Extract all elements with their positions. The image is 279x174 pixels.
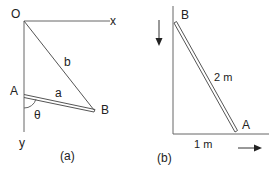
base-distance-label: 1 m	[194, 139, 212, 150]
ladder-end-top	[174, 22, 177, 24]
angle-label: θ	[34, 109, 41, 121]
point-a-label: A	[10, 85, 18, 97]
point-b-label-b: B	[181, 9, 189, 21]
right-arrow-icon	[254, 145, 262, 152]
angle-arc	[24, 99, 36, 108]
caption-a: (a)	[60, 150, 75, 162]
origin-label: O	[11, 8, 20, 20]
ladder-end-bottom	[235, 131, 238, 133]
string-label: b	[64, 56, 71, 68]
x-axis-label: x	[110, 15, 116, 27]
diagram-canvas	[0, 0, 279, 174]
rod-length-label: 2 m	[214, 72, 232, 83]
down-arrow-icon	[156, 38, 163, 46]
point-a-label-b: A	[242, 119, 250, 131]
caption-b: (b)	[157, 152, 172, 164]
rod-label: a	[55, 87, 62, 99]
panel-b-figure	[156, 6, 270, 152]
y-axis-label: y	[19, 137, 25, 149]
point-b-label: B	[101, 104, 109, 116]
